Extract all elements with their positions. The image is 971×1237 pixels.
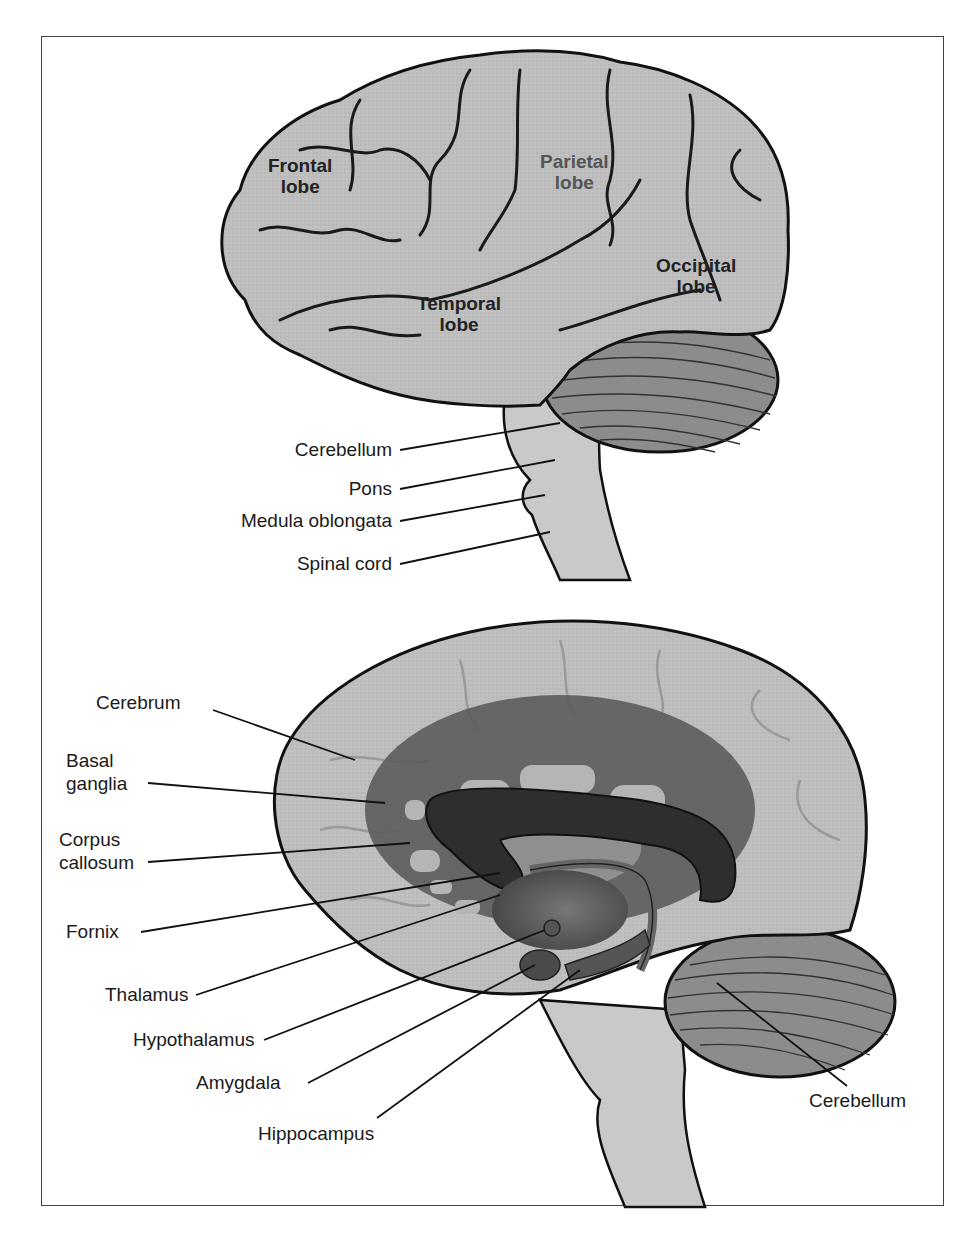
label-hypothalamus: Hypothalamus <box>133 1029 254 1051</box>
label-cerebrum: Cerebrum <box>96 692 180 714</box>
label-spinal-cord: Spinal cord <box>297 553 392 575</box>
lobe-label-parietal: Parietal lobe <box>540 151 609 193</box>
label-hippocampus: Hippocampus <box>258 1123 374 1145</box>
lobe-suffix: lobe <box>656 276 736 297</box>
label-basal: Basal <box>66 750 114 772</box>
label-fornix: Fornix <box>66 921 119 943</box>
label-cerebellum-top: Cerebellum <box>295 439 392 461</box>
lobe-name: Parietal <box>540 151 609 172</box>
lobe-label-temporal: Temporal lobe <box>417 293 501 335</box>
label-cerebellum-bottom: Cerebellum <box>809 1090 906 1112</box>
lobe-name: Frontal <box>268 155 332 176</box>
medial-brain <box>274 621 895 1207</box>
label-medula-oblongata: Medula oblongata <box>241 510 392 532</box>
lobe-label-occipital: Occipital lobe <box>656 255 736 297</box>
label-thalamus: Thalamus <box>105 984 188 1006</box>
label-callosum: callosum <box>59 852 134 874</box>
lobe-suffix: lobe <box>417 314 501 335</box>
label-pons: Pons <box>349 478 392 500</box>
lobe-name: Temporal <box>417 293 501 314</box>
lobe-name: Occipital <box>656 255 736 276</box>
label-amygdala: Amygdala <box>196 1072 281 1094</box>
lobe-label-frontal: Frontal lobe <box>268 155 332 197</box>
lateral-brain <box>222 51 789 580</box>
brain-illustration <box>0 0 971 1237</box>
lobe-suffix: lobe <box>268 176 332 197</box>
label-corpus: Corpus <box>59 829 120 851</box>
label-ganglia: ganglia <box>66 773 127 795</box>
lobe-suffix: lobe <box>540 172 609 193</box>
